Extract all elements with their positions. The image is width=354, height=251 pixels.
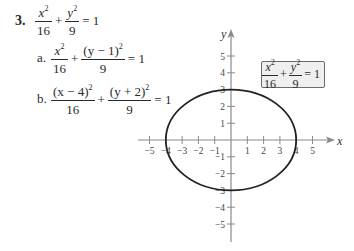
y-tick-label: −5	[215, 220, 225, 230]
denominator: 9	[289, 75, 302, 90]
y-tick-label: 4	[220, 68, 225, 78]
x-tick-label: 1	[245, 146, 250, 156]
y-tick-label: −4	[215, 203, 225, 213]
x-tick-label: −3	[177, 146, 187, 156]
exponent: 2	[271, 58, 275, 67]
x-tick-label: −5	[144, 146, 154, 156]
x-tick-label: −2	[193, 146, 203, 156]
equation-label-box: x2 16 + y2 9 = 1	[261, 61, 325, 88]
ellipse-graph: xy−5−4−3−2−11234554321−1−2−3−4−5	[0, 0, 354, 251]
denominator: 16	[262, 75, 278, 90]
exponent: 2	[296, 58, 300, 67]
axes: xy−5−4−3−2−11234554321−1−2−3−4−5	[138, 27, 343, 242]
y-tick-label: 1	[220, 119, 225, 129]
y-tick-label: −1	[215, 152, 225, 162]
x-tick-label: 3	[278, 146, 283, 156]
y-tick-label: −2	[215, 169, 225, 179]
equals-one: = 1	[304, 67, 320, 82]
y-tick-label: 2	[220, 102, 225, 112]
plus-sign: +	[280, 67, 287, 82]
x-tick-label: 5	[310, 146, 315, 156]
box-term2: y2 9	[290, 59, 301, 90]
y-axis-label: y	[220, 27, 227, 41]
x-axis-label: x	[336, 134, 343, 148]
box-term1: x2 16	[263, 59, 277, 90]
y-tick-label: 5	[220, 52, 225, 62]
x-tick-label: 2	[261, 146, 266, 156]
